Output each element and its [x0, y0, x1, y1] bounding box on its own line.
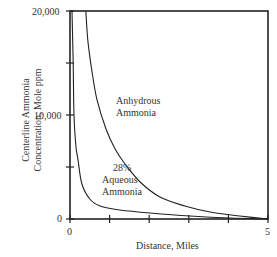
y-tick-label-20000: 20,000 [32, 6, 60, 17]
aqueous-label-line1: 28% [113, 162, 131, 173]
y-axis-label-line2: Concentration, Mole ppm [32, 50, 44, 190]
plot-frame [70, 11, 268, 219]
y-axis-label: Centerline Ammonia Concentration, Mole p… [20, 50, 44, 190]
y-axis-label-line1: Centerline Ammonia [20, 50, 32, 190]
x-tick-label-0: 0 [67, 226, 72, 237]
aqueous-label-line2: Aqueous [102, 174, 138, 185]
anhydrous-label-line2: Ammonia [116, 107, 156, 118]
aqueous-label-line3: Ammonia [102, 186, 142, 197]
x-axis-label: Distance, Miles [136, 240, 199, 251]
y-tick-label-0: 0 [57, 213, 62, 224]
x-tick-label-5: 5 [265, 226, 270, 237]
anhydrous-label-line1: Anhydrous [116, 95, 160, 106]
